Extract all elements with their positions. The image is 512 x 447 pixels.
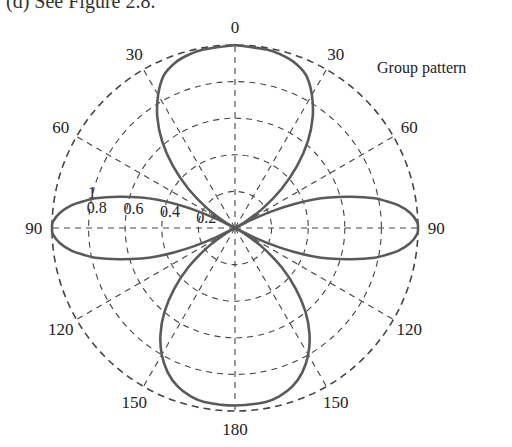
grid-spoke [144, 228, 236, 386]
angle-tick-label: 60 [52, 118, 69, 137]
grid-spoke [235, 228, 393, 320]
radial-tick-label: 0.6 [124, 200, 144, 217]
grid-spoke [235, 137, 393, 229]
polar-plot: 0303060609090120120150150180 0.20.40.60.… [0, 0, 512, 447]
radial-tick-labels: 0.20.40.60.81 [87, 184, 216, 226]
angle-tick-label: 60 [401, 118, 418, 137]
grid-spoke [235, 228, 327, 386]
angle-tick-label: 30 [126, 45, 143, 64]
angle-tick-label: 90 [25, 219, 42, 238]
angle-tick-label: 30 [327, 45, 344, 64]
grid-spoke [77, 228, 235, 320]
angle-tick-label: 120 [48, 320, 74, 339]
angle-tick-label: 90 [428, 219, 445, 238]
angle-tick-label: 120 [397, 320, 423, 339]
angle-tick-label: 150 [122, 393, 148, 412]
radial-tick-label: 0.8 [87, 199, 107, 216]
angle-tick-label: 180 [222, 420, 248, 439]
angle-tick-label: 150 [323, 393, 349, 412]
angle-tick-label: 0 [231, 18, 240, 37]
